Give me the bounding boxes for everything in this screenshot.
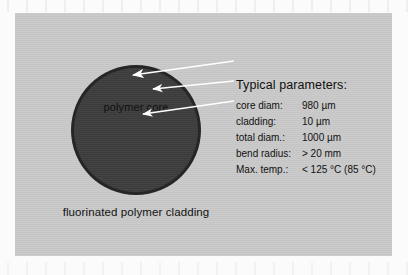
- polymer-core-disc: [74, 68, 198, 192]
- typical-parameters-block: Typical parameters: core diam: 980 µm cl…: [236, 78, 392, 180]
- fluorinated-polymer-cladding-label: fluorinated polymer cladding: [20, 206, 252, 218]
- parameter-label: bend radius:: [236, 148, 302, 159]
- parameter-value: > 20 mm: [302, 148, 341, 159]
- parameter-row-cladding: cladding: 10 µm: [236, 116, 392, 127]
- parameter-value: 1000 µm: [302, 132, 341, 143]
- parameter-row-core-diam: core diam: 980 µm: [236, 100, 392, 111]
- parameter-row-max-temp: Max. temp.: < 125 °C (85 °C): [236, 164, 392, 175]
- scan-artifact-bottom: [0, 262, 408, 275]
- parameter-value: 10 µm: [302, 116, 330, 127]
- parameter-label: cladding:: [236, 116, 302, 127]
- figure-panel: polymer core fluorinated polymer claddin…: [15, 13, 392, 256]
- parameter-label: total diam.:: [236, 132, 302, 143]
- scanned-page: polymer core fluorinated polymer claddin…: [0, 0, 408, 275]
- parameter-row-bend-radius: bend radius: > 20 mm: [236, 148, 392, 159]
- parameter-label: core diam:: [236, 100, 302, 111]
- scan-artifact-top: [0, 0, 408, 12]
- polymer-core-label: polymer core: [71, 101, 201, 113]
- parameter-row-total-diam: total diam.: 1000 µm: [236, 132, 392, 143]
- fiber-cross-section-diagram: polymer core: [71, 65, 201, 195]
- parameter-value: < 125 °C (85 °C): [302, 164, 376, 175]
- parameter-label: Max. temp.:: [236, 164, 302, 175]
- parameter-value: 980 µm: [302, 100, 336, 111]
- typical-parameters-heading: Typical parameters:: [236, 78, 392, 92]
